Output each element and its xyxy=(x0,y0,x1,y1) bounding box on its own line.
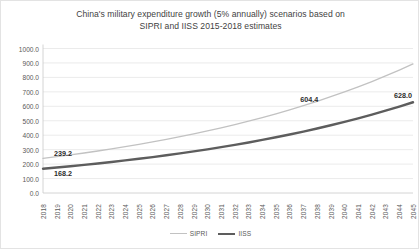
legend-label-iiss: IISS xyxy=(238,230,251,237)
x-tick-label: 2023 xyxy=(108,204,115,219)
x-tick-label: 2035 xyxy=(273,204,280,219)
x-tick-label: 2022 xyxy=(95,204,102,219)
y-tick-label: 400.0 xyxy=(5,132,39,139)
x-tick-label: 2037 xyxy=(300,204,307,219)
y-tick-label: 500.0 xyxy=(5,117,39,124)
y-tick-label: 1000.0 xyxy=(5,45,39,52)
y-tick-label: 100.0 xyxy=(5,175,39,182)
x-tick-label: 2021 xyxy=(81,204,88,219)
y-tick-label: 700.0 xyxy=(5,88,39,95)
x-tick-label: 2034 xyxy=(259,204,266,219)
data-label: 604.4 xyxy=(300,94,318,103)
x-tick-label: 2036 xyxy=(286,204,293,219)
x-tick-label: 2030 xyxy=(204,204,211,219)
x-tick-label: 2040 xyxy=(341,204,348,219)
x-tick-label: 2031 xyxy=(218,204,225,219)
x-tick-label: 2042 xyxy=(369,204,376,219)
x-tick-label: 2033 xyxy=(245,204,252,219)
data-label: 628.0 xyxy=(394,91,412,100)
x-tick-label: 2020 xyxy=(67,204,74,219)
x-tick-label: 2044 xyxy=(396,204,403,219)
x-tick-label: 2039 xyxy=(328,204,335,219)
x-tick-label: 2032 xyxy=(232,204,239,219)
legend-item-sipri: SIPRI xyxy=(170,230,208,237)
y-tick-label: 200.0 xyxy=(5,161,39,168)
y-tick-label: 600.0 xyxy=(5,103,39,110)
legend-swatch-iiss-icon xyxy=(218,233,235,235)
x-tick-label: 2043 xyxy=(382,204,389,219)
legend-swatch-sipri-icon xyxy=(170,233,187,234)
x-tick-label: 2045 xyxy=(410,204,417,219)
x-tick-label: 2038 xyxy=(314,204,321,219)
legend-label-sipri: SIPRI xyxy=(190,230,208,237)
chart-legend: SIPRI IISS xyxy=(1,230,419,237)
data-label: 168.2 xyxy=(54,168,72,177)
legend-item-iiss: IISS xyxy=(218,230,251,237)
x-tick-label: 2026 xyxy=(149,204,156,219)
y-tick-label: 300.0 xyxy=(5,146,39,153)
x-tick-label: 2018 xyxy=(40,204,47,219)
x-tick-label: 2025 xyxy=(136,204,143,219)
x-tick-label: 2019 xyxy=(54,204,61,219)
y-tick-label: 800.0 xyxy=(5,74,39,81)
chart-container: China's military expenditure growth (5% … xyxy=(0,0,419,249)
x-tick-label: 2027 xyxy=(163,204,170,219)
y-tick-label: 900.0 xyxy=(5,59,39,66)
x-tick-label: 2028 xyxy=(177,204,184,219)
series-line-sipri xyxy=(43,64,413,158)
x-axis: 2018201920202021202220232024202520262027… xyxy=(1,193,419,219)
x-tick-label: 2029 xyxy=(191,204,198,219)
x-tick-label: 2024 xyxy=(122,204,129,219)
x-tick-label: 2041 xyxy=(355,204,362,219)
data-label: 239.2 xyxy=(54,149,72,158)
